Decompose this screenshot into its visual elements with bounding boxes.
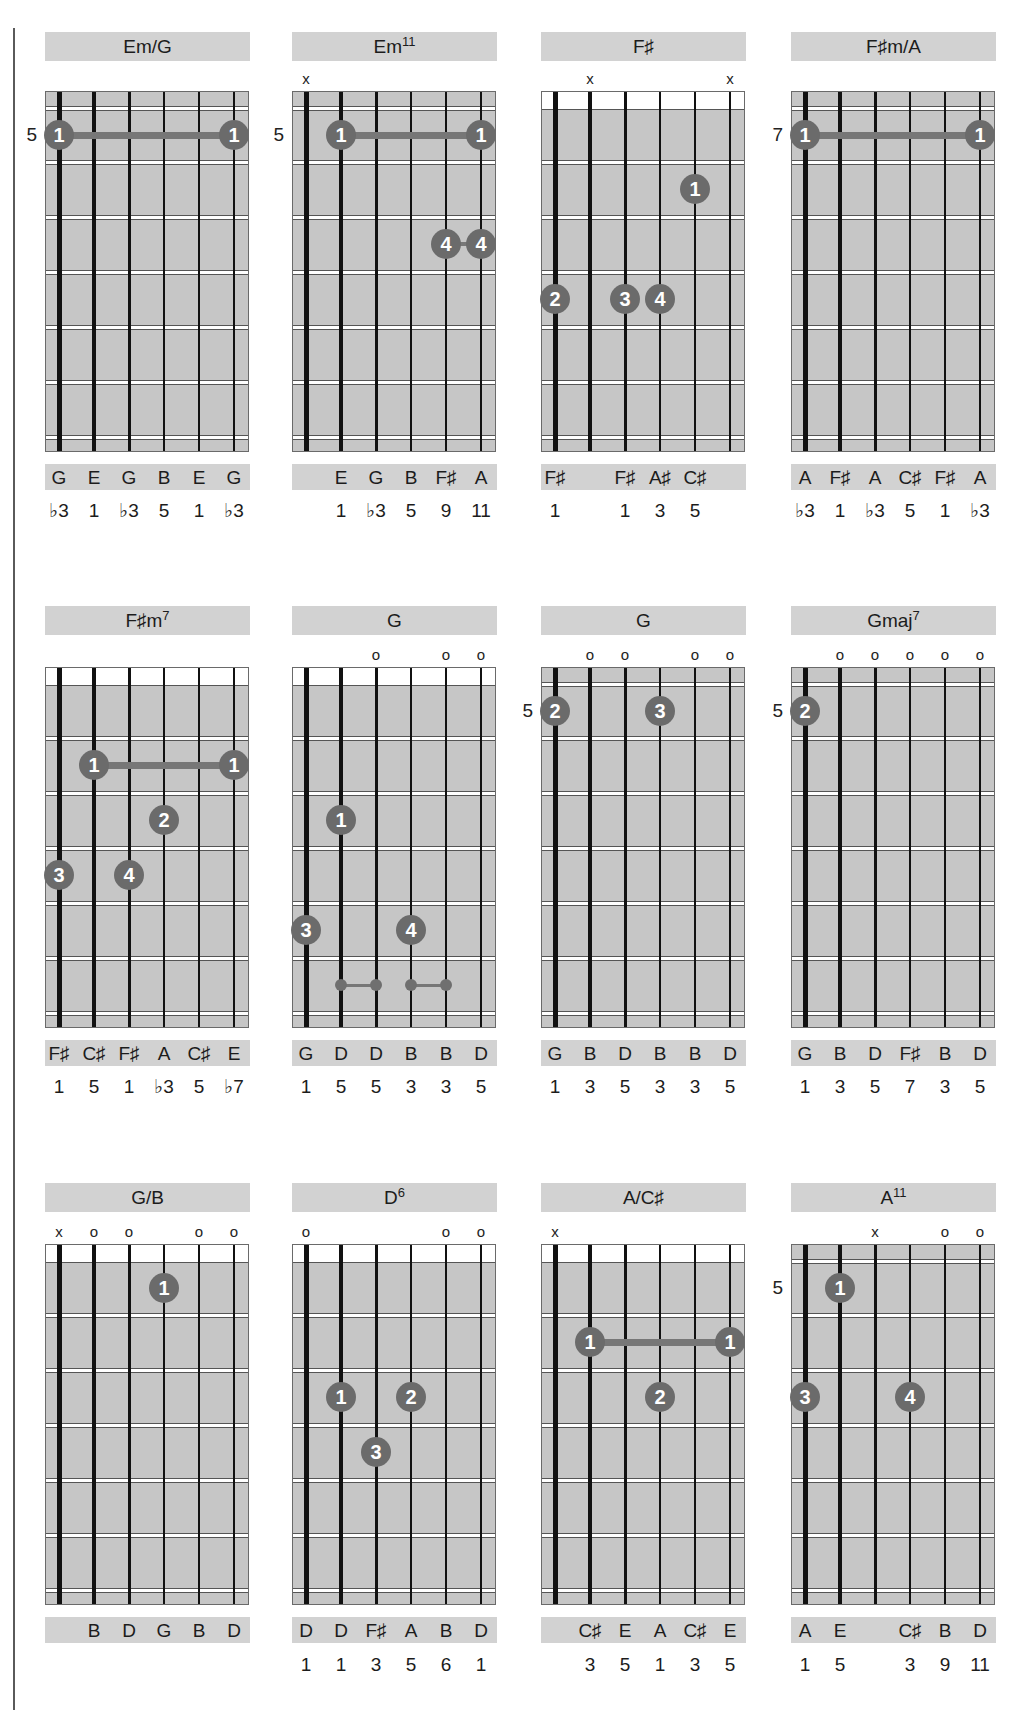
note-name: E [219, 1040, 249, 1067]
note-name: B [396, 1040, 426, 1067]
note-name: F♯ [431, 464, 461, 491]
fret-line [542, 1533, 744, 1538]
fret-line [293, 1368, 495, 1373]
interval-label: 5 [361, 1076, 391, 1098]
fret-line [293, 901, 495, 906]
fret-line [542, 736, 744, 741]
guitar-string [729, 1245, 730, 1604]
open-string-icon: o [580, 647, 600, 663]
fret-line [542, 1313, 744, 1318]
fret-line [293, 380, 495, 385]
note-name: B [184, 1617, 214, 1644]
note-names-bar: AF♯AC♯F♯A [791, 464, 996, 490]
fret-line [46, 160, 248, 165]
guitar-string [624, 668, 627, 1027]
chord-name: Em/G [123, 36, 172, 57]
guitar-string [410, 668, 413, 1027]
note-name: F♯ [361, 1617, 391, 1644]
fret-line [542, 1588, 744, 1593]
finger-dot: 4 [431, 229, 461, 259]
note-name: C♯ [184, 1040, 214, 1067]
guitar-string [838, 92, 842, 451]
chord-name: F♯m [125, 610, 162, 631]
interval-label: 5 [715, 1076, 745, 1098]
open-string-icon: o [685, 647, 705, 663]
note-name: A [466, 464, 496, 491]
guitar-string [128, 1245, 131, 1604]
note-names-bar: GBDF♯BD [791, 1040, 996, 1066]
fret-line [792, 106, 994, 111]
guitar-string [729, 92, 730, 451]
interval-label: 3 [396, 1076, 426, 1098]
finger-dot: 3 [361, 1437, 391, 1467]
guitar-string [445, 92, 447, 451]
note-name: E [184, 464, 214, 491]
interval-label: 5 [860, 1076, 890, 1098]
interval-label: ♭3 [219, 500, 249, 522]
note-name: E [79, 464, 109, 491]
note-name: F♯ [610, 464, 640, 491]
chord-extension: 11 [402, 34, 416, 49]
fret-line [792, 1533, 994, 1538]
note-names-bar: GDDBBD [292, 1040, 497, 1066]
fret-line [792, 215, 994, 220]
guitar-string [128, 92, 131, 451]
finger-dot: 3 [790, 1382, 820, 1412]
fret-line [542, 1368, 744, 1373]
finger-dot: 3 [291, 915, 321, 945]
fret-line [542, 435, 744, 440]
interval-label: 9 [431, 500, 461, 522]
note-name: G [219, 464, 249, 491]
fret-line [542, 325, 744, 330]
fret-position-label: 5 [264, 124, 284, 146]
fret-line [792, 1259, 994, 1264]
barre-line [94, 762, 234, 769]
chord-extension: 11 [893, 1185, 907, 1200]
guitar-string [874, 1245, 877, 1604]
interval-label: ♭3 [965, 500, 995, 522]
guitar-string [304, 668, 309, 1027]
interval-label: 5 [610, 1654, 640, 1676]
guitar-string [588, 668, 592, 1027]
note-name: A [790, 1617, 820, 1644]
open-string-icon: o [436, 647, 456, 663]
chord-title: G [292, 606, 497, 635]
muted-string-icon: x [580, 71, 600, 87]
chord-name: F♯m/A [866, 36, 921, 57]
finger-dot: 2 [540, 696, 570, 726]
interval-label: 5 [466, 1076, 496, 1098]
page-margin-rule [13, 28, 15, 1710]
chord-title: A/C♯ [541, 1183, 746, 1212]
note-name: F♯ [895, 1040, 925, 1067]
note-name: G [44, 464, 74, 491]
guitar-string [163, 92, 166, 451]
fret-line [293, 160, 495, 165]
note-name: D [610, 1040, 640, 1067]
note-name: D [114, 1617, 144, 1644]
interval-label: ♭3 [44, 500, 74, 522]
finger-dot: 4 [114, 860, 144, 890]
interval-label: 1 [184, 500, 214, 522]
note-name: F♯ [540, 464, 570, 491]
muted-string-icon: x [545, 1224, 565, 1240]
open-string-icon: o [830, 647, 850, 663]
barre-line [590, 1339, 730, 1346]
interval-label: 1 [79, 500, 109, 522]
note-name: A [860, 464, 890, 491]
guitar-string [944, 668, 946, 1027]
fretboard [541, 91, 745, 452]
guitar-string [874, 668, 877, 1027]
open-string-icon: o [970, 1224, 990, 1240]
interval-label: 3 [680, 1654, 710, 1676]
fret-line [46, 1588, 248, 1593]
guitar-string [659, 1245, 662, 1604]
chord-title: F♯m7 [45, 606, 250, 635]
optional-note-dot [405, 979, 417, 991]
fret-line [542, 160, 744, 165]
fret-line [46, 106, 248, 111]
fret-line [293, 1478, 495, 1483]
chord-title: G/B [45, 1183, 250, 1212]
note-name: D [219, 1617, 249, 1644]
guitar-string [339, 668, 343, 1027]
fret-line [792, 380, 994, 385]
